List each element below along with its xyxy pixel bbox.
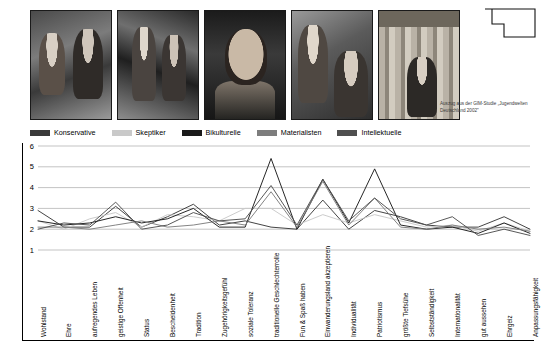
y-tick-label: 4 [30, 183, 34, 192]
photo-3 [204, 10, 286, 120]
x-tick-label: Einwanderungsland akzeptieren [325, 246, 331, 337]
legend-item: Skeptiker [112, 128, 166, 137]
legend-swatch-icon [30, 130, 50, 136]
x-tick-label: Fun & Spaß haben [300, 283, 306, 337]
x-tick-label: soziale Toleranz [248, 291, 254, 337]
x-tick-label: traditionelle Geschlechterrolle [274, 253, 280, 337]
x-tick-label: aufregendes Leben [92, 282, 98, 337]
y-tick-label: 5 [30, 162, 34, 171]
legend-item: Bikulturelle [182, 128, 241, 137]
x-tick-label: Tradition [196, 312, 202, 337]
photo-strip [30, 10, 460, 120]
legend-label: Materialisten [281, 128, 322, 137]
legend-label: Skeptiker [136, 128, 166, 137]
x-axis-labels: WohlstandEhreaufregendes Lebengeistige O… [22, 253, 534, 341]
photo-2 [117, 10, 199, 120]
y-tick-label: 3 [30, 204, 34, 213]
x-tick-label: Zugehörigkeitsgefühl [222, 278, 228, 337]
legend-item: Konservative [30, 128, 96, 137]
photo-4 [291, 10, 373, 120]
x-tick-label: Ehrgeiz [507, 315, 513, 337]
x-tick-label: Bescheidenheit [170, 293, 176, 337]
legend-label: Intellektuelle [361, 128, 401, 137]
legend-swatch-icon [337, 130, 357, 136]
x-tick-label: größte Tiefsühe [403, 293, 409, 337]
photo-1 [30, 10, 112, 120]
legend-swatch-icon [112, 130, 132, 136]
x-tick-label: Patriotismus [377, 302, 383, 337]
x-tick-label: Ehre [66, 324, 72, 338]
axis-bottom-rule [22, 340, 534, 341]
legend-item: Materialisten [257, 128, 322, 137]
legend-swatch-icon [182, 130, 202, 136]
chart-legend: KonservativeSkeptikerBikulturelleMateria… [30, 128, 508, 137]
x-tick-label: Status [144, 319, 150, 337]
legend-swatch-icon [257, 130, 277, 136]
source-note: Auszug aus der GIM-Studie „Jugendwelten … [440, 100, 532, 114]
legend-label: Bikulturelle [206, 128, 241, 137]
y-tick-label: 6 [30, 143, 34, 151]
page-root: Auszug aus der GIM-Studie „Jugendwelten … [0, 0, 552, 342]
y-tick-label: 2 [30, 225, 34, 234]
chart-plot-area: 123456 [22, 143, 534, 253]
x-tick-label: Internationalität [455, 293, 461, 337]
x-tick-label: Anpassungsfähigkeit [533, 278, 539, 337]
legend-label: Konservative [54, 128, 96, 137]
corner-bracket-mark [484, 8, 536, 38]
series-line-3 [38, 181, 530, 231]
x-tick-label: Wohlstand [41, 307, 47, 337]
x-tick-label: Individualität [351, 301, 357, 337]
x-tick-label: gut aussehen [481, 299, 487, 337]
legend-item: Intellektuelle [337, 128, 401, 137]
x-tick-label: geistige Offenheit [118, 287, 124, 337]
x-tick-label: Selbstständigkeit [429, 289, 435, 337]
series-line-2 [38, 158, 530, 233]
y-tick-label: 1 [30, 246, 34, 253]
